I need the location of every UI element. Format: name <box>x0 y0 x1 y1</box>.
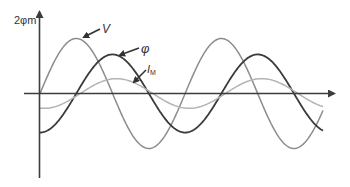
waveform-diagram: 2φm V φ IM <box>0 0 350 187</box>
v-leader-arrow <box>84 29 100 37</box>
phi-label: φ <box>141 41 150 56</box>
im-label-subscript: M <box>150 69 156 76</box>
phi-leader-arrow <box>120 48 139 55</box>
v-label: V <box>102 22 111 36</box>
im-label: IM <box>147 63 156 76</box>
y-axis-label: 2φm <box>14 14 36 26</box>
